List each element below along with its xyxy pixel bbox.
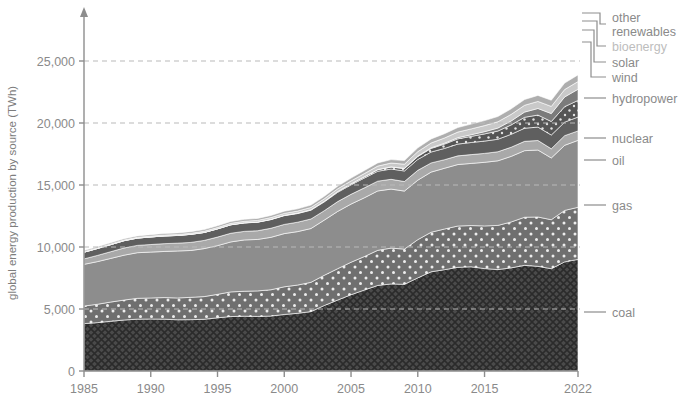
legend: otherrenewablesbioenergysolarwindhydropo… xyxy=(582,11,677,320)
y-axis-tick-labels: 05,00010,00015,00020,00025,000 xyxy=(37,55,75,379)
y-tick-label-0: 0 xyxy=(68,365,75,379)
legend-label-hydropower[interactable]: hydropower xyxy=(612,92,677,106)
x-tick-label-2005: 2005 xyxy=(337,382,365,396)
legend-label-bioenergy[interactable]: bioenergy xyxy=(612,40,668,54)
y-tick-label-15000: 15,000 xyxy=(37,179,75,193)
x-tick-label-2015: 2015 xyxy=(471,382,499,396)
x-axis-tick-labels: 19851990199520002005201020152022 xyxy=(70,382,592,396)
legend-label-other-renewables-line2[interactable]: renewables xyxy=(612,25,676,39)
x-tick-label-2000: 2000 xyxy=(270,382,298,396)
y-axis-title: global energy production by source (TWh) xyxy=(6,86,18,300)
area-layers xyxy=(84,75,578,371)
stacked-area-chart: 19851990199520002005201020152022 05,0001… xyxy=(0,0,691,409)
legend-label-gas[interactable]: gas xyxy=(612,199,632,213)
y-tick-label-10000: 10,000 xyxy=(37,241,75,255)
x-tick-label-1995: 1995 xyxy=(204,382,232,396)
legend-label-wind[interactable]: wind xyxy=(611,71,638,85)
y-tick-label-5000: 5,000 xyxy=(44,303,75,317)
legend-label-other-renewables[interactable]: other xyxy=(612,11,641,25)
chart-container: 19851990199520002005201020152022 05,0001… xyxy=(0,0,691,409)
legend-label-solar[interactable]: solar xyxy=(612,56,639,70)
x-tick-label-1990: 1990 xyxy=(137,382,165,396)
x-tick-label-2022: 2022 xyxy=(564,382,592,396)
x-tick-label-1985: 1985 xyxy=(70,382,98,396)
legend-label-oil[interactable]: oil xyxy=(612,154,625,168)
legend-leader-other-renewables xyxy=(582,13,606,24)
x-tick-label-2010: 2010 xyxy=(404,382,432,396)
legend-label-nuclear[interactable]: nuclear xyxy=(612,132,653,146)
legend-label-coal[interactable]: coal xyxy=(612,306,635,320)
y-tick-label-20000: 20,000 xyxy=(37,117,75,131)
y-axis-arrow-icon xyxy=(80,7,88,17)
y-tick-label-25000: 25,000 xyxy=(37,55,75,69)
